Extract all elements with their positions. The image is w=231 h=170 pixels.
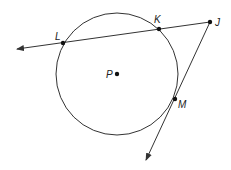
label-k: K [154,14,162,25]
secant-ray-jl [17,22,210,49]
geometry-diagram: LKJMP [0,0,231,170]
point-l [61,41,65,45]
label-p: P [106,69,113,80]
label-m: M [178,99,187,110]
point-m [173,97,177,101]
point-k [157,27,161,31]
point-j [208,20,212,24]
label-j: J [214,17,221,28]
tangent-ray-jm [146,22,210,160]
label-l: L [55,31,61,42]
point-p [115,72,119,76]
